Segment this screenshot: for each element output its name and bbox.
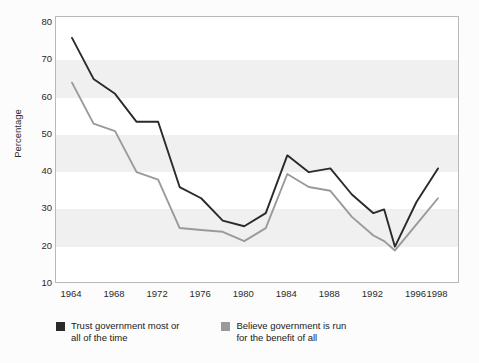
y-axis-tick-labels: 8070605040302010 — [26, 16, 52, 283]
chart-legend: Trust government most or all of the time… — [56, 320, 346, 344]
x-axis-tick: 1996 — [405, 288, 426, 300]
x-axis-tick: 1964 — [60, 288, 81, 300]
series-lines — [56, 17, 459, 283]
legend-label-trust-line1: Trust government most or — [71, 320, 179, 331]
y-axis-tick: 10 — [41, 278, 52, 288]
y-axis-tick: 70 — [41, 54, 52, 64]
y-axis-tick: 60 — [41, 92, 52, 102]
x-axis-tick: 1984 — [276, 288, 297, 300]
y-axis-tick: 20 — [41, 241, 52, 251]
y-axis-tick: 30 — [41, 203, 52, 213]
chart-figure: Percentage 8070605040302010 196419681972… — [0, 0, 479, 363]
series-line-0 — [72, 38, 438, 247]
x-axis-tick: 1988 — [319, 288, 340, 300]
legend-item-benefit: Believe government is run for the benefi… — [221, 320, 346, 344]
x-axis-tick: 1976 — [190, 288, 211, 300]
legend-swatch-benefit — [221, 322, 230, 331]
legend-swatch-trust — [56, 322, 65, 331]
x-axis-tick: 1968 — [103, 288, 124, 300]
legend-label-benefit-line1: Believe government is run — [236, 320, 346, 331]
x-axis-tick: 1992 — [362, 288, 383, 300]
legend-item-trust: Trust government most or all of the time — [56, 320, 179, 344]
x-axis-tick: 1998 — [426, 288, 447, 300]
legend-label-benefit: Believe government is run for the benefi… — [236, 320, 346, 344]
x-axis-tick-labels: 1964196819721976198019841988199219961998 — [55, 288, 459, 302]
y-axis-tick: 50 — [41, 129, 52, 139]
x-axis-tick: 1980 — [233, 288, 254, 300]
x-axis-tick: 1972 — [147, 288, 168, 300]
legend-label-trust: Trust government most or all of the time — [71, 320, 179, 344]
y-axis-tick: 40 — [41, 166, 52, 176]
legend-label-trust-line2: all of the time — [71, 332, 179, 344]
legend-label-benefit-line2: for the benefit of all — [236, 332, 346, 344]
y-axis-title: Percentage — [12, 99, 23, 169]
y-axis-tick: 80 — [41, 17, 52, 27]
plot-area — [55, 16, 459, 283]
